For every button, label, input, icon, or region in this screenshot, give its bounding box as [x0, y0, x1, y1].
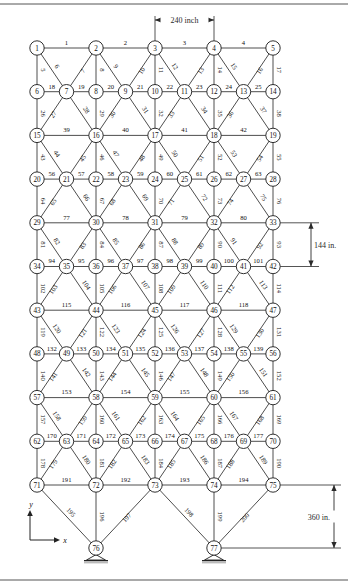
axis-x-arrowhead [54, 537, 60, 543]
member-label: 171 [76, 432, 86, 439]
member-label: 188 [224, 457, 236, 470]
node-label: 24 [151, 176, 159, 184]
member-label: 62 [225, 170, 232, 177]
node-label: 16 [92, 132, 100, 140]
axis-y-arrowhead [27, 510, 33, 516]
node-label: 57 [33, 394, 41, 402]
dim-label-backdrop-2 [331, 511, 337, 523]
member-label: 83 [78, 240, 88, 250]
node-label: 67 [181, 438, 189, 446]
axes-group: yx [27, 500, 67, 545]
member-label: 180 [81, 453, 93, 466]
member-label: 87 [158, 241, 165, 248]
node-label: 75 [269, 482, 277, 490]
node-label: 46 [210, 307, 218, 315]
member-label: 56 [48, 170, 55, 177]
member-label: 75 [259, 193, 269, 203]
member-label: 148 [199, 366, 211, 379]
member-label: 71 [166, 197, 175, 206]
member-label: 129 [228, 322, 240, 335]
member-label: 25 [255, 83, 262, 90]
member-label: 122 [99, 327, 106, 337]
member-label: 13 [196, 65, 206, 75]
member-label: 184 [158, 458, 165, 469]
member-label: 59 [137, 170, 144, 177]
member-label: 133 [76, 345, 87, 352]
member-label: 19 [78, 83, 85, 90]
node-label: 55 [240, 350, 248, 358]
node-label: 35 [63, 263, 71, 271]
member-label: 28 [82, 105, 92, 115]
member-label: 141 [47, 371, 58, 383]
member-label: 30 [107, 109, 117, 119]
dim-arrow-up-2 [331, 485, 336, 491]
node-label: 39 [181, 263, 189, 271]
node-label: 36 [92, 263, 100, 271]
member-label: 151 [258, 366, 269, 378]
member-label: 176 [224, 432, 235, 439]
node-label: 1 [35, 45, 39, 53]
truss-member [248, 185, 269, 217]
member-label: 3 [183, 39, 187, 46]
member-label: 101 [253, 257, 263, 264]
member-label: 9 [112, 63, 120, 70]
member-label: 160 [99, 415, 106, 426]
member-label: 46 [99, 154, 106, 161]
member-label: 102 [40, 283, 47, 293]
node-label: 23 [122, 176, 130, 184]
node-label: 47 [269, 307, 277, 315]
member-label: 12 [170, 62, 179, 71]
node-label: 58 [92, 394, 100, 402]
node-label: 56 [269, 350, 277, 358]
member-label: 166 [217, 415, 224, 426]
node-label: 63 [63, 438, 71, 446]
member-label: 44 [52, 149, 62, 159]
member-label: 33 [166, 109, 176, 119]
member-label: 107 [140, 279, 152, 292]
member-label: 135 [135, 345, 146, 352]
member-label: 118 [239, 301, 249, 308]
node-label: 45 [151, 307, 159, 315]
node-label: 71 [33, 482, 41, 490]
member-label: 93 [276, 241, 283, 248]
node-label: 41 [240, 263, 248, 271]
node-label: 49 [63, 350, 71, 358]
member-label: 1 [65, 39, 68, 46]
member-label: 84 [99, 241, 106, 248]
node-label: 77 [210, 545, 218, 553]
member-label: 5 [40, 68, 47, 72]
node-label: 30 [92, 219, 100, 227]
member-label: 124 [136, 326, 148, 339]
member-label: 192 [121, 476, 131, 483]
members-group [37, 48, 273, 543]
member-label: 179 [47, 457, 59, 470]
node-label: 69 [240, 438, 248, 446]
member-label: 54 [255, 153, 265, 163]
member-label: 174 [165, 432, 176, 439]
member-label: 100 [224, 257, 235, 264]
node-label: 68 [210, 438, 218, 446]
member-label: 106 [106, 283, 118, 296]
member-label: 76 [276, 198, 283, 205]
member-label: 6 [53, 63, 61, 70]
member-label: 21 [137, 83, 144, 90]
member-label: 82 [52, 236, 61, 245]
member-label: 159 [77, 414, 89, 427]
node-label: 21 [63, 176, 71, 184]
member-label: 165 [195, 414, 207, 427]
member-label: 39 [63, 126, 70, 133]
node-label: 5 [271, 45, 275, 53]
member-label: 136 [165, 345, 176, 352]
node-label: 4 [212, 45, 216, 53]
member-label: 79 [181, 214, 188, 221]
member-label: 43 [40, 154, 47, 161]
member-label: 61 [196, 170, 203, 177]
member-label: 14 [217, 67, 224, 74]
member-label: 170 [47, 432, 58, 439]
node-label: 6 [35, 88, 39, 96]
node-label: 74 [210, 482, 218, 490]
node-label: 72 [92, 482, 100, 490]
member-label: 10 [137, 65, 147, 75]
member-label: 8 [99, 68, 106, 72]
node-label: 9 [124, 88, 128, 96]
